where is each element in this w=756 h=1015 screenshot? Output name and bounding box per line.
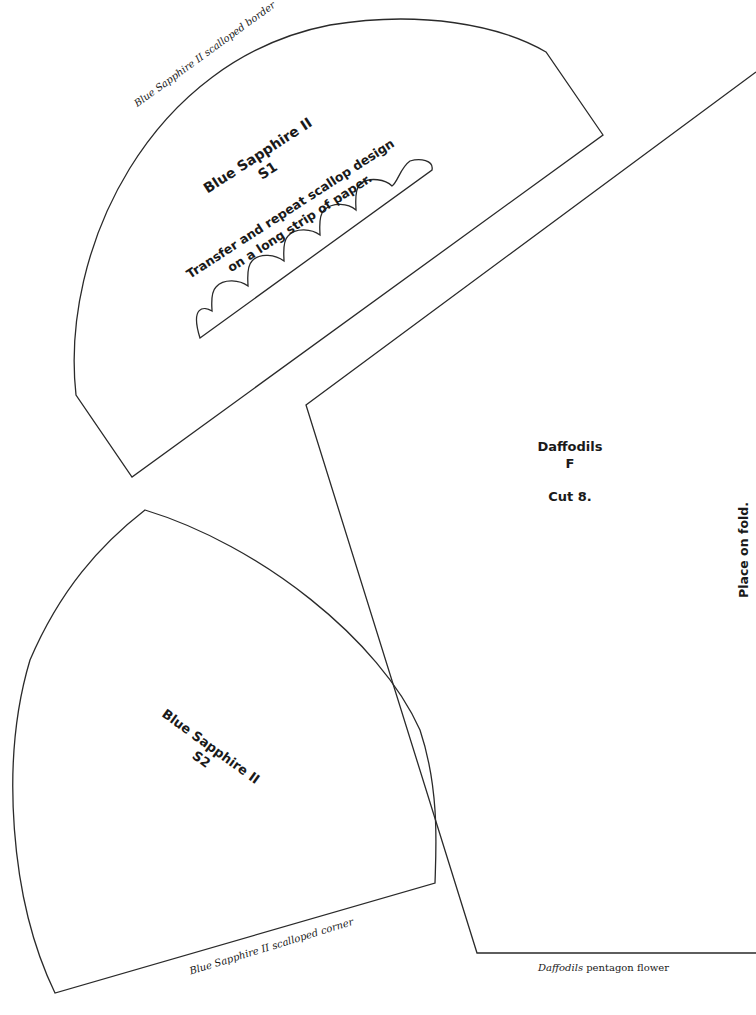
daffodils-caption-italic: Daffodils — [538, 962, 583, 973]
daffodils-title-line2: F — [520, 455, 620, 472]
daffodils-outline — [306, 72, 756, 953]
daffodils-caption: Daffodils pentagon flower — [538, 962, 669, 973]
daffodils-caption-rest: pentagon flower — [586, 962, 669, 973]
daffodils-title-line1: Daffodils — [520, 438, 620, 455]
daffodils-cut-note: Cut 8. — [520, 488, 620, 505]
fold-note: Place on fold. — [736, 502, 751, 598]
daffodils-title: Daffodils F Cut 8. — [520, 438, 620, 505]
